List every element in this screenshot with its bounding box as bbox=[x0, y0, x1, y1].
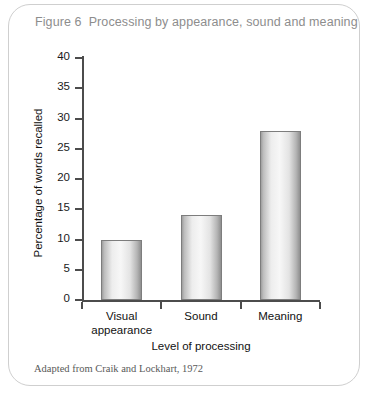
x-tick-mark bbox=[160, 302, 162, 309]
bar bbox=[101, 240, 142, 301]
bar bbox=[260, 131, 301, 300]
y-tick-mark bbox=[75, 269, 82, 271]
x-tick-mark bbox=[319, 302, 321, 309]
y-tick-label: 0 bbox=[44, 292, 70, 304]
category-label-line: Sound bbox=[161, 309, 240, 323]
figure-card: Figure 6Processing by appearance, sound … bbox=[8, 4, 360, 386]
y-tick-mark bbox=[75, 178, 82, 180]
x-tick-mark bbox=[240, 302, 242, 309]
x-axis-line bbox=[82, 300, 320, 302]
y-tick-mark bbox=[75, 57, 82, 59]
bar-chart: 0510152025303540 VisualappearanceSoundMe… bbox=[9, 5, 361, 357]
y-tick-label: 20 bbox=[44, 171, 70, 183]
category-label-line: Visual bbox=[82, 309, 161, 323]
x-axis-title: Level of processing bbox=[82, 340, 320, 352]
category-label-line: Meaning bbox=[241, 309, 320, 323]
category-label: Meaning bbox=[241, 309, 320, 323]
x-tick-mark bbox=[81, 302, 83, 309]
y-tick-label: 35 bbox=[44, 80, 70, 92]
y-tick-label: 10 bbox=[44, 232, 70, 244]
y-tick-mark bbox=[75, 87, 82, 89]
y-tick-label: 5 bbox=[44, 262, 70, 274]
y-tick-label: 30 bbox=[44, 111, 70, 123]
y-tick-mark bbox=[75, 299, 82, 301]
y-tick-mark bbox=[75, 239, 82, 241]
y-tick-label: 25 bbox=[44, 141, 70, 153]
category-label: Visualappearance bbox=[82, 309, 161, 337]
y-axis-line bbox=[82, 56, 84, 302]
bar bbox=[181, 215, 222, 300]
figure-source-note: Adapted from Craik and Lockhart, 1972 bbox=[34, 363, 203, 374]
y-tick-mark bbox=[75, 148, 82, 150]
y-axis-title: Percentage of words recalled bbox=[32, 98, 44, 268]
y-tick-mark bbox=[75, 118, 82, 120]
category-label-line: appearance bbox=[82, 323, 161, 337]
category-label: Sound bbox=[161, 309, 240, 323]
y-tick-mark bbox=[75, 208, 82, 210]
y-tick-label: 15 bbox=[44, 201, 70, 213]
y-tick-label: 40 bbox=[44, 50, 70, 62]
